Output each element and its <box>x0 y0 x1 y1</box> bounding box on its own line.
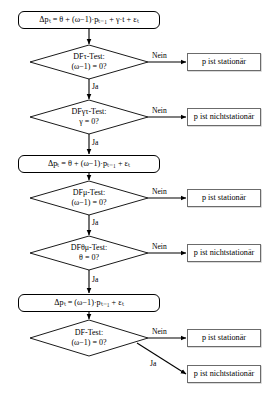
result-text-stationaer-1: p ist stationär <box>202 57 246 66</box>
connector-df-plain-ja <box>137 343 186 374</box>
decision-diamond-df-theta-mu <box>30 236 148 270</box>
decision-diamond-df-mu <box>30 181 148 215</box>
result-text-nichtstationaer-2: p ist nichtstationär <box>194 248 255 257</box>
edge-label-ja-df-theta-mu: Ja <box>92 276 98 284</box>
edge-label-nein-df-gamma-tau: Nein <box>152 107 167 115</box>
result-box-nichtstationaer-3: p ist nichtstationär <box>187 365 261 383</box>
result-text-nichtstationaer-3: p ist nichtstationär <box>194 369 255 378</box>
edge-label-ja-df-mu: Ja <box>92 219 98 227</box>
result-text-stationaer-3: p ist stationär <box>202 333 246 342</box>
equation-box-plain: Δpₜ = (ω−1)·pₜ₋₁ + εₜ <box>18 294 160 312</box>
result-box-nichtstationaer-1: p ist nichtstationär <box>187 108 261 126</box>
edge-label-ja-df-tau: Ja <box>92 83 98 91</box>
edge-label-nein-df-plain: Nein <box>152 328 167 336</box>
flowchart-canvas: Δpₜ = θ + (ω−1)·pₜ₋₁ + γ·t + εₜ Δpₜ = θ … <box>0 0 269 396</box>
edge-label-nein-df-tau: Nein <box>152 52 167 60</box>
result-box-stationaer-2: p ist stationär <box>187 189 261 207</box>
result-text-stationaer-2: p ist stationär <box>202 193 246 202</box>
result-box-nichtstationaer-2: p ist nichtstationär <box>187 244 261 262</box>
equation-plain-text: Δpₜ = (ω−1)·pₜ₋₁ + εₜ <box>54 298 123 307</box>
result-text-nichtstationaer-1: p ist nichtstationär <box>194 112 255 121</box>
equation-box-drift: Δpₜ = θ + (ω−1)·pₜ₋₁ + εₜ <box>18 155 160 173</box>
equation-trend-text: Δpₜ = θ + (ω−1)·pₜ₋₁ + γ·t + εₜ <box>39 15 138 24</box>
decision-diamond-df-gamma-tau <box>30 100 148 134</box>
result-box-stationaer-1: p ist stationär <box>187 53 261 71</box>
edge-label-ja-df-plain: Ja <box>150 360 156 368</box>
edge-label-nein-df-theta-mu: Nein <box>152 243 167 251</box>
equation-box-trend: Δpₜ = θ + (ω−1)·pₜ₋₁ + γ·t + εₜ <box>18 11 160 29</box>
result-box-stationaer-3: p ist stationär <box>187 329 261 347</box>
decision-diamond-df-tau <box>30 45 148 79</box>
equation-drift-text: Δpₜ = θ + (ω−1)·pₜ₋₁ + εₜ <box>48 159 130 168</box>
edge-label-nein-df-mu: Nein <box>152 188 167 196</box>
edge-label-ja-df-gamma-tau: Ja <box>92 139 98 147</box>
decision-diamond-df-plain <box>30 320 148 356</box>
